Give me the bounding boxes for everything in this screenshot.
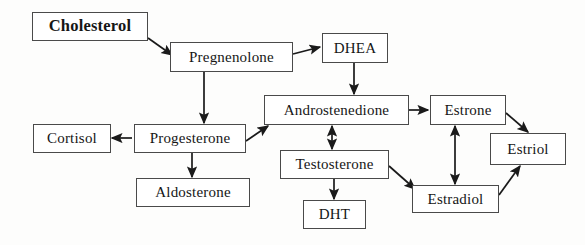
node-dht: DHT xyxy=(303,200,366,229)
node-dhea: DHEA xyxy=(322,33,388,63)
node-testosterone: Testosterone xyxy=(280,150,389,179)
node-estradiol: Estradiol xyxy=(412,185,499,213)
pathway-diagram: CholesterolPregnenoloneDHEAAndrostenedio… xyxy=(0,0,585,245)
node-estriol: Estriol xyxy=(490,133,566,165)
node-androstenedione: Androstenedione xyxy=(264,95,409,125)
arrow-progesterone-to-androstenedione xyxy=(246,126,268,141)
node-cortisol: Cortisol xyxy=(33,124,111,153)
arrow-pregnenolone-to-dhea xyxy=(293,47,320,54)
arrow-estradiol-to-estriol xyxy=(499,166,520,195)
arrow-cholesterol-to-pregnenolone xyxy=(148,38,172,55)
arrow-estrone-to-estriol xyxy=(506,113,528,132)
node-cholesterol: Cholesterol xyxy=(32,12,148,41)
node-estrone: Estrone xyxy=(430,95,506,125)
node-aldosterone: Aldosterone xyxy=(136,178,250,207)
node-progesterone: Progesterone xyxy=(134,124,246,153)
node-pregnenolone: Pregnenolone xyxy=(170,42,293,72)
